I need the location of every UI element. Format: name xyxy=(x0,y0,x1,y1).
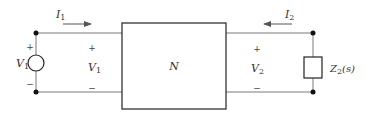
node-bottom-left xyxy=(34,90,39,95)
port1-current-label: I1 xyxy=(55,8,65,22)
port1-plus: + xyxy=(88,43,96,53)
node-bottom-right xyxy=(311,90,316,95)
voltage-source-icon xyxy=(28,55,44,71)
impedance-icon xyxy=(304,57,322,78)
source-label: V1 xyxy=(16,57,29,71)
load-label: Z2(s) xyxy=(329,63,355,76)
node-top-right xyxy=(311,31,316,36)
port2-minus: − xyxy=(253,83,261,93)
node-top-left xyxy=(34,31,39,36)
port1-voltage-label: V1 xyxy=(88,61,101,75)
source-plus: + xyxy=(26,42,34,52)
port2-current-label: I2 xyxy=(284,8,294,22)
network-label: N xyxy=(168,60,179,73)
source-minus: − xyxy=(26,79,34,89)
port2-plus: + xyxy=(253,44,261,54)
port1-minus: − xyxy=(88,83,96,93)
port2-voltage-label: V2 xyxy=(251,62,264,76)
circuit-diagram: N + − V1 + V1 − I1 + V2 − I2 Z2(s) xyxy=(0,0,366,115)
